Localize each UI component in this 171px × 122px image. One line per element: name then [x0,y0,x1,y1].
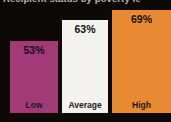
bar: 63% Average [62,20,108,113]
bar-category-label: High [112,100,171,110]
bar-category-label: Low [10,100,58,110]
plot-area: 53% Low 63% Average 69% High [0,0,171,122]
bar-value-label: 69% [112,13,171,25]
bar: 53% Low [10,41,58,113]
bar-value-label: 53% [10,44,58,56]
bar: 69% High [112,10,171,113]
bar-chart: Recipient status by poverty le 53% Low 6… [0,0,171,122]
bar-category-label: Average [62,100,108,110]
bar-value-label: 63% [62,23,108,35]
